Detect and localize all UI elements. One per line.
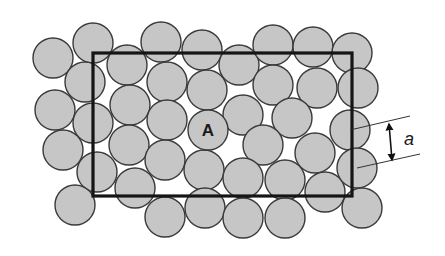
particle [223, 158, 263, 198]
particle [182, 30, 222, 70]
particle [115, 168, 155, 208]
particle [145, 197, 185, 237]
labeled-particle: A [188, 110, 228, 150]
particle [43, 130, 83, 170]
particle-packing-diagram: A a [0, 0, 445, 256]
particle [265, 160, 305, 200]
particle [145, 140, 185, 180]
particle [147, 100, 187, 140]
particle [223, 198, 263, 238]
particle [141, 22, 181, 62]
particle [342, 188, 382, 228]
dimension-label: a [404, 129, 414, 149]
particle [107, 45, 147, 85]
particle [293, 27, 333, 67]
particle [253, 25, 293, 65]
particle [219, 45, 259, 85]
particle [265, 198, 305, 238]
particle [184, 150, 224, 190]
particle [55, 185, 95, 225]
particle [338, 68, 378, 108]
particle [187, 70, 227, 110]
particle [110, 85, 150, 125]
particle [35, 90, 75, 130]
particle [109, 125, 149, 165]
double-arrow-icon [389, 124, 392, 160]
particle [65, 62, 105, 102]
particle-label: A [202, 121, 214, 140]
particle [185, 188, 225, 228]
particle [147, 62, 187, 102]
